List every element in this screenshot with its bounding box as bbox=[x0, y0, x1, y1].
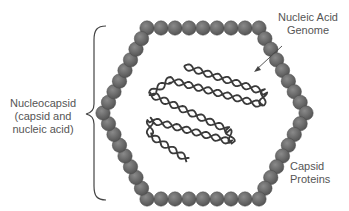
label-nucleocapsid: Nucleocapsid (capsid and nucleic acid) bbox=[2, 97, 84, 136]
capsid-protein-bead bbox=[252, 192, 266, 206]
capsid-protein-bead bbox=[154, 192, 168, 206]
genome-strand-2 bbox=[147, 64, 266, 158]
capsid-protein-bead bbox=[182, 21, 196, 35]
label-capsid-proteins: Capsid Proteins bbox=[290, 160, 340, 186]
label-nucleocapsid-line1: Nucleocapsid bbox=[2, 97, 84, 110]
capsid-protein-bead bbox=[238, 21, 252, 35]
capsid-protein-bead bbox=[168, 192, 182, 206]
capsid-protein-bead bbox=[168, 21, 182, 35]
label-capsid-line2: Proteins bbox=[290, 173, 340, 186]
capsid-protein-bead bbox=[210, 192, 224, 206]
capsid-protein-bead bbox=[134, 31, 148, 45]
label-nucleocapsid-line3: nucleic acid) bbox=[2, 123, 84, 136]
label-capsid-line1: Capsid bbox=[290, 160, 340, 173]
label-nucleic-acid-genome: Nucleic Acid Genome bbox=[272, 11, 344, 37]
capsid-protein-bead bbox=[210, 21, 224, 35]
label-nucleocapsid-line2: (capsid and bbox=[2, 110, 84, 123]
capsid-protein-bead bbox=[182, 192, 196, 206]
capsid-protein-bead bbox=[224, 192, 238, 206]
capsid-protein-bead bbox=[196, 21, 210, 35]
capsid-protein-bead bbox=[224, 21, 238, 35]
capsid-protein-bead bbox=[196, 192, 210, 206]
label-genome-line1: Nucleic Acid bbox=[272, 11, 344, 24]
capsid-protein-bead bbox=[154, 21, 168, 35]
label-genome-line2: Genome bbox=[272, 24, 344, 37]
nucleic-acid-genome bbox=[147, 64, 267, 162]
capsid-protein-shell bbox=[96, 21, 313, 206]
capsid-protein-bead bbox=[238, 192, 252, 206]
